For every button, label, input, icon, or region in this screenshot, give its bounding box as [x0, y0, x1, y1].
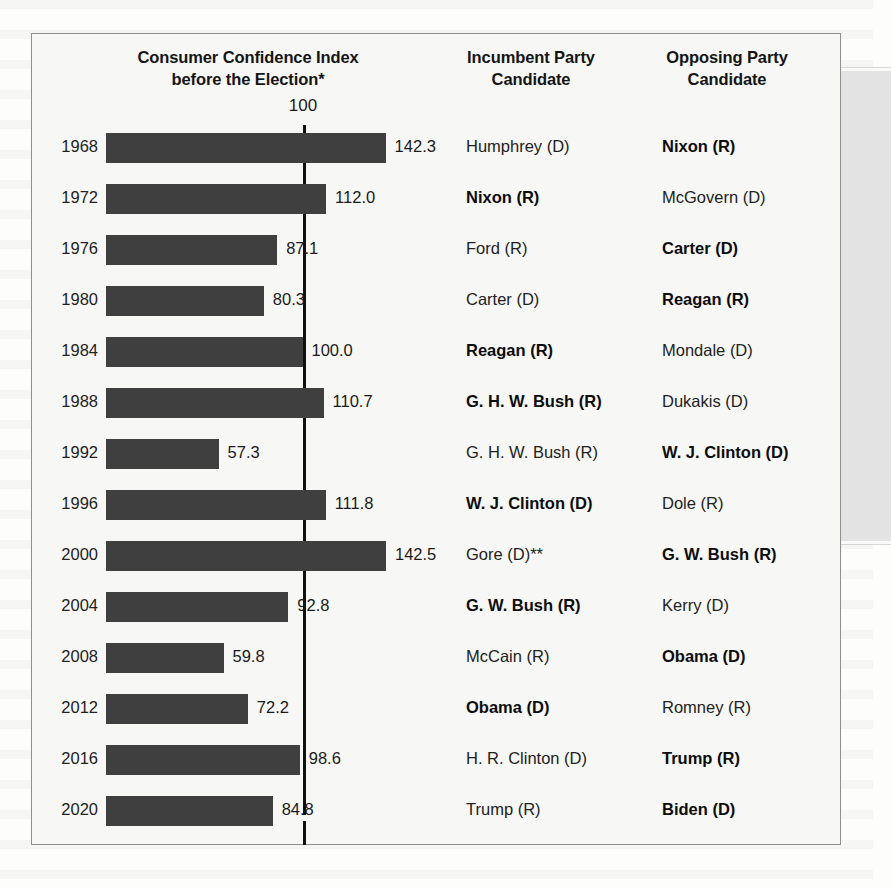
confidence-index-bar — [106, 337, 303, 367]
opposing-candidate-label: Trump (R) — [662, 749, 740, 768]
table-row: 202084.8Trump (R)Biden (D) — [32, 788, 840, 839]
incumbent-candidate-label: Obama (D) — [466, 698, 549, 717]
chart-plot-area: 100 1968142.3Humphrey (D)Nixon (R)197211… — [32, 34, 840, 844]
table-row: 1968142.3Humphrey (D)Nixon (R) — [32, 125, 840, 176]
incumbent-candidate-label: Carter (D) — [466, 290, 539, 309]
incumbent-candidate-label: Reagan (R) — [466, 341, 553, 360]
table-row: 197687.1Ford (R)Carter (D) — [32, 227, 840, 278]
incumbent-candidate-label: G. W. Bush (R) — [466, 596, 581, 615]
row-year-label: 2000 — [40, 545, 98, 564]
bar-value-label: 57.3 — [228, 443, 260, 462]
opposing-candidate-label: Nixon (R) — [662, 137, 735, 156]
opposing-candidate-label: G. W. Bush (R) — [662, 545, 777, 564]
opposing-candidate-label: Kerry (D) — [662, 596, 729, 615]
row-year-label: 1988 — [40, 392, 98, 411]
bar-value-label: 111.8 — [335, 494, 374, 513]
bar-value-label: 72.2 — [257, 698, 289, 717]
bar-value-label: 112.0 — [335, 188, 375, 207]
bar-value-label: 84.8 — [282, 800, 314, 819]
row-year-label: 1996 — [40, 494, 98, 513]
bar-value-label: 59.8 — [233, 647, 265, 666]
opposing-candidate-label: W. J. Clinton (D) — [662, 443, 788, 462]
confidence-index-bar — [106, 184, 326, 214]
table-row: 201272.2Obama (D)Romney (R) — [32, 686, 840, 737]
table-row: 201698.6H. R. Clinton (D)Trump (R) — [32, 737, 840, 788]
confidence-index-bar — [106, 133, 386, 163]
opposing-candidate-label: McGovern (D) — [662, 188, 766, 207]
bar-value-label: 142.3 — [395, 137, 436, 156]
table-row: 1972112.0Nixon (R)McGovern (D) — [32, 176, 840, 227]
bar-value-label: 142.5 — [395, 545, 436, 564]
incumbent-candidate-label: Ford (R) — [466, 239, 527, 258]
confidence-index-bar — [106, 286, 264, 316]
opposing-candidate-label: Dukakis (D) — [662, 392, 748, 411]
opposing-candidate-label: Carter (D) — [662, 239, 738, 258]
table-row: 1996111.8W. J. Clinton (D)Dole (R) — [32, 482, 840, 533]
confidence-index-bar — [106, 694, 248, 724]
table-row: 199257.3G. H. W. Bush (R)W. J. Clinton (… — [32, 431, 840, 482]
confidence-index-bar — [106, 235, 277, 265]
incumbent-candidate-label: McCain (R) — [466, 647, 549, 666]
row-year-label: 1972 — [40, 188, 98, 207]
figure-container: Consumer Confidence Index before the Ele… — [31, 33, 841, 845]
row-year-label: 2004 — [40, 596, 98, 615]
table-row: 1988110.7G. H. W. Bush (R)Dukakis (D) — [32, 380, 840, 431]
confidence-index-bar — [106, 388, 324, 418]
opposing-candidate-label: Biden (D) — [662, 800, 735, 819]
confidence-index-bar — [106, 439, 219, 469]
row-year-label: 1980 — [40, 290, 98, 309]
confidence-index-bar — [106, 796, 273, 826]
opposing-candidate-label: Mondale (D) — [662, 341, 753, 360]
bar-value-label: 92.8 — [297, 596, 329, 615]
confidence-index-bar — [106, 643, 224, 673]
table-row: 198080.3Carter (D)Reagan (R) — [32, 278, 840, 329]
incumbent-candidate-label: G. H. W. Bush (R) — [466, 443, 598, 462]
row-year-label: 2012 — [40, 698, 98, 717]
opposing-candidate-label: Romney (R) — [662, 698, 751, 717]
bar-value-label: 110.7 — [333, 392, 373, 411]
table-row: 200492.8G. W. Bush (R)Kerry (D) — [32, 584, 840, 635]
incumbent-candidate-label: W. J. Clinton (D) — [466, 494, 592, 513]
bar-value-label: 98.6 — [309, 749, 341, 768]
reference-line-label: 100 — [273, 96, 333, 116]
row-year-label: 1992 — [40, 443, 98, 462]
incumbent-candidate-label: H. R. Clinton (D) — [466, 749, 587, 768]
opposing-candidate-label: Reagan (R) — [662, 290, 749, 309]
confidence-index-bar — [106, 592, 288, 622]
row-year-label: 2020 — [40, 800, 98, 819]
confidence-index-bar — [106, 745, 300, 775]
incumbent-candidate-label: Humphrey (D) — [466, 137, 570, 156]
table-row: 1984100.0Reagan (R)Mondale (D) — [32, 329, 840, 380]
confidence-index-bar — [106, 490, 326, 520]
row-year-label: 1968 — [40, 137, 98, 156]
incumbent-candidate-label: Gore (D)** — [466, 545, 543, 564]
opposing-candidate-label: Obama (D) — [662, 647, 745, 666]
bar-value-label: 100.0 — [312, 341, 353, 360]
bar-value-label: 80.3 — [273, 290, 305, 309]
table-row: 2000142.5Gore (D)**G. W. Bush (R) — [32, 533, 840, 584]
bar-value-label: 87.1 — [286, 239, 318, 258]
incumbent-candidate-label: G. H. W. Bush (R) — [466, 392, 602, 411]
incumbent-candidate-label: Nixon (R) — [466, 188, 539, 207]
table-row: 200859.8McCain (R)Obama (D) — [32, 635, 840, 686]
incumbent-candidate-label: Trump (R) — [466, 800, 541, 819]
opposing-candidate-label: Dole (R) — [662, 494, 723, 513]
row-year-label: 1976 — [40, 239, 98, 258]
row-year-label: 2008 — [40, 647, 98, 666]
confidence-index-bar — [106, 541, 386, 571]
row-year-label: 1984 — [40, 341, 98, 360]
row-year-label: 2016 — [40, 749, 98, 768]
